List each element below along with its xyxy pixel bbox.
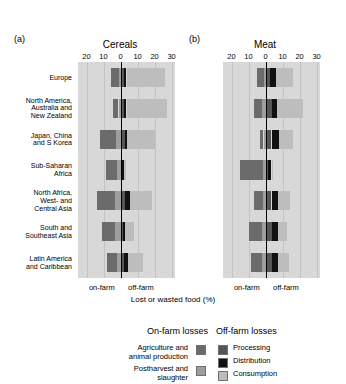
bar-segment: [124, 160, 127, 179]
category-label: Sub-SaharanAfrica: [8, 162, 72, 177]
bar-segment: [125, 222, 134, 241]
bar-segment: [130, 191, 152, 210]
bar-segment: [260, 130, 263, 149]
gridline: [172, 62, 173, 278]
bar-segment: [100, 130, 116, 149]
chart-legend: On-farm losses Off-farm losses Agricultu…: [0, 320, 346, 384]
bar-segment: [257, 68, 264, 87]
plot-area-meat: [223, 62, 320, 278]
bar-segment: [128, 253, 142, 272]
legend-swatch-consumption: [218, 371, 228, 381]
plot-area-cereals: [78, 62, 175, 278]
category-label: Europe: [8, 74, 72, 82]
axis-side-label-offfarm-cereals: off-farm: [119, 283, 163, 292]
bar-segment: [97, 191, 115, 210]
gridline: [138, 62, 139, 278]
legend-label-distribution: Distribution: [233, 357, 333, 366]
zero-axis-line: [121, 62, 122, 278]
panel-tag-b: (b): [189, 34, 200, 44]
bar-segment: [240, 160, 263, 179]
x-axis-label: Lost or wasted food (%): [0, 295, 346, 304]
bar-segment: [272, 130, 280, 149]
bar-segment: [254, 99, 262, 118]
bar-segment: [107, 253, 117, 272]
category-label: Japan, Chinaand S Korea: [8, 132, 72, 147]
gridline: [317, 62, 318, 278]
x-tick-label: 10: [275, 52, 291, 61]
axis-side-label-onfarm-cereals: on-farm: [80, 283, 124, 292]
gridline: [104, 62, 105, 278]
bar-segment: [127, 99, 168, 118]
zero-axis-line: [266, 62, 267, 278]
panel-title-meat: Meat: [213, 39, 317, 50]
category-label: Latin Americaand Caribbean: [8, 255, 72, 270]
legend-label-agriculture: Agriculture andanimal production: [78, 344, 188, 361]
legend-swatch-postharvest: [196, 366, 206, 376]
gridline: [155, 62, 156, 278]
bar-segment: [278, 191, 290, 210]
gridline: [300, 62, 301, 278]
legend-swatch-agriculture: [196, 345, 206, 355]
bar-segment: [277, 99, 303, 118]
axis-side-label-offfarm-meat: off-farm: [264, 283, 308, 292]
panel-tag-a: (a): [14, 34, 25, 44]
x-tick-label: 0: [258, 52, 274, 61]
bar-segment: [102, 222, 115, 241]
legend-heading-offfarm: Off-farm losses: [216, 326, 277, 336]
bar-segment: [276, 68, 293, 87]
legend-label-processing: Processing: [233, 344, 333, 353]
category-label: North Africa,West- andCentral Asia: [8, 189, 72, 212]
legend-label-consumption: Consumption: [233, 370, 333, 379]
panel-title-cereals: Cereals: [68, 39, 172, 50]
category-label: South andSoutheast Asia: [8, 224, 72, 239]
legend-heading-onfarm: On-farm losses: [88, 326, 208, 336]
bar-segment: [279, 130, 293, 149]
gridline: [232, 62, 233, 278]
bar-segment: [127, 68, 165, 87]
bar-segment: [127, 130, 154, 149]
legend-swatch-distribution: [218, 358, 228, 368]
x-tick-label: 30: [309, 52, 325, 61]
bar-segment: [106, 160, 117, 179]
bar-segment: [113, 99, 119, 118]
legend-swatch-processing: [218, 345, 228, 355]
x-tick-label: 20: [224, 52, 240, 61]
bar-segment: [254, 191, 263, 210]
bar-segment: [249, 222, 262, 241]
figure-root: (a) (b) Cereals Meat 20100102030 2010010…: [0, 0, 346, 384]
axis-side-label-onfarm-meat: on-farm: [225, 283, 269, 292]
bar-segment: [272, 191, 279, 210]
bar-segment: [111, 68, 119, 87]
bar-segment: [272, 160, 274, 179]
legend-label-postharvest: Postharvest andslaughter: [78, 365, 188, 382]
bar-segment: [278, 222, 287, 241]
gridline: [87, 62, 88, 278]
gridline: [283, 62, 284, 278]
x-tick-label: 10: [241, 52, 257, 61]
x-tick-label: 20: [292, 52, 308, 61]
category-label: North America,Australia andNew Zealand: [8, 97, 72, 120]
bar-segment: [278, 253, 289, 272]
bar-segment: [251, 253, 262, 272]
